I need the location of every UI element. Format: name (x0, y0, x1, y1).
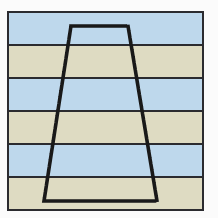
stratum-layer-4 (9, 112, 202, 143)
stratigraphy-figure (0, 0, 218, 218)
stratum-layer-2 (9, 46, 202, 77)
stratum-divider-2 (9, 77, 202, 79)
stratum-divider-5 (9, 176, 202, 178)
stratum-divider-3 (9, 110, 202, 112)
strata-frame (7, 11, 204, 211)
stratum-layer-3 (9, 79, 202, 110)
stratum-divider-1 (9, 44, 202, 46)
stratum-layer-5 (9, 145, 202, 176)
stratum-layer-1 (9, 13, 202, 44)
stratum-divider-4 (9, 143, 202, 145)
stratum-layer-6 (9, 178, 202, 209)
